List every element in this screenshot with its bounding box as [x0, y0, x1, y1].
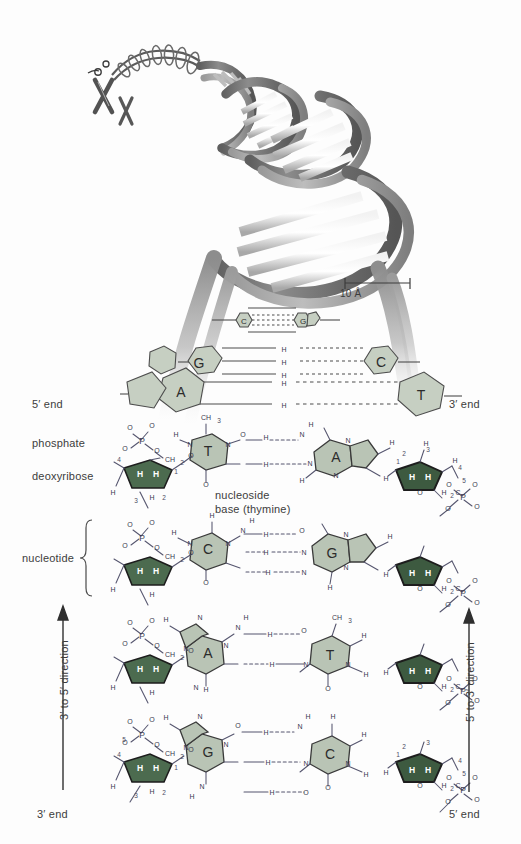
- svg-text:H: H: [137, 566, 143, 576]
- nucleoside-label-line1: nucleoside: [215, 489, 270, 501]
- scale-bar-label: 10 Å: [340, 288, 361, 299]
- svg-text:O: O: [203, 579, 209, 586]
- svg-text:H: H: [409, 765, 415, 775]
- svg-text:1: 1: [174, 764, 178, 771]
- svg-text:H: H: [110, 489, 115, 496]
- fanout-pair-cg-small: [212, 308, 340, 332]
- five-prime-end-right-label: 5′ end: [449, 808, 480, 820]
- svg-text:3: 3: [134, 497, 138, 504]
- svg-text:N: N: [197, 713, 202, 720]
- svg-text:H: H: [189, 793, 194, 800]
- svg-text:H: H: [409, 472, 415, 482]
- svg-text:2: 2: [450, 785, 454, 792]
- nucleotide-bracket: [80, 520, 92, 596]
- svg-text:5: 5: [462, 770, 466, 777]
- svg-text:N: N: [240, 527, 245, 534]
- svg-text:O: O: [149, 519, 155, 526]
- svg-text:G: G: [300, 317, 306, 326]
- svg-text:O: O: [472, 577, 478, 584]
- svg-text:H: H: [209, 512, 214, 519]
- svg-text:H: H: [281, 359, 286, 366]
- svg-text:5: 5: [122, 736, 126, 743]
- svg-text:2: 2: [402, 450, 406, 457]
- svg-text:O: O: [122, 445, 128, 452]
- svg-text:O: O: [446, 774, 452, 781]
- svg-text:H: H: [265, 759, 270, 766]
- svg-text:O: O: [417, 585, 423, 592]
- svg-text:2: 2: [450, 492, 454, 499]
- svg-text:P: P: [460, 492, 466, 502]
- svg-text:H: H: [149, 689, 154, 696]
- svg-text:H: H: [281, 346, 286, 353]
- svg-text:2: 2: [180, 654, 184, 661]
- svg-text:O: O: [154, 741, 160, 748]
- svg-text:CH: CH: [165, 553, 175, 560]
- svg-text:H: H: [441, 489, 446, 496]
- svg-text:4: 4: [458, 757, 462, 764]
- hbonds-row-1: [246, 440, 306, 464]
- hbonds-at-large: [200, 382, 398, 404]
- svg-text:2: 2: [162, 789, 166, 796]
- three-prime-end-right-label: 3′ end: [449, 398, 480, 410]
- svg-text:H: H: [425, 568, 431, 578]
- base-pair-row-3: [114, 624, 472, 710]
- svg-text:H: H: [383, 669, 388, 676]
- svg-text:A: A: [203, 645, 213, 661]
- svg-text:O: O: [446, 675, 452, 682]
- svg-text:2: 2: [450, 588, 454, 595]
- svg-text:CH: CH: [165, 456, 175, 463]
- svg-text:O: O: [325, 685, 331, 692]
- svg-text:H: H: [441, 585, 446, 592]
- phosphate-label: phosphate: [32, 437, 85, 449]
- svg-text:O: O: [188, 647, 194, 654]
- svg-text:3: 3: [217, 417, 221, 424]
- hbonds-gc-medium: [222, 348, 364, 374]
- svg-text:O: O: [445, 601, 451, 608]
- svg-text:4: 4: [458, 464, 462, 471]
- svg-text:H: H: [383, 571, 388, 578]
- svg-text:H: H: [171, 529, 176, 536]
- svg-text:O: O: [127, 718, 133, 725]
- svg-text:2: 2: [402, 743, 406, 750]
- svg-text:O: O: [154, 447, 160, 454]
- nucleoside-label-line2: base (thymine): [215, 503, 291, 515]
- svg-text:N: N: [223, 642, 228, 649]
- svg-text:O: O: [417, 489, 423, 496]
- svg-text:O: O: [122, 542, 128, 549]
- svg-text:H: H: [281, 372, 286, 379]
- svg-text:O: O: [474, 599, 480, 606]
- svg-text:O: O: [149, 716, 155, 723]
- svg-text:N: N: [297, 723, 302, 730]
- svg-text:C: C: [376, 354, 386, 370]
- svg-text:O: O: [299, 527, 305, 534]
- deoxyribose-label: deoxyribose: [32, 470, 94, 482]
- svg-text:H: H: [137, 664, 143, 674]
- svg-text:N: N: [183, 744, 188, 751]
- svg-text:3: 3: [426, 739, 430, 746]
- svg-text:H: H: [203, 686, 208, 693]
- svg-text:O: O: [127, 521, 133, 528]
- svg-text:N: N: [343, 531, 348, 538]
- hbonds-row-2: [244, 534, 300, 572]
- svg-text:P: P: [139, 730, 145, 740]
- svg-text:H: H: [305, 713, 310, 720]
- svg-text:N: N: [225, 441, 230, 448]
- svg-text:H: H: [265, 569, 270, 576]
- svg-text:H: H: [149, 788, 154, 795]
- svg-text:P: P: [460, 588, 466, 598]
- svg-text:H: H: [441, 683, 446, 690]
- five-prime-end-left-label: 5′ end: [32, 398, 63, 410]
- svg-text:H: H: [389, 439, 394, 446]
- svg-text:2: 2: [180, 459, 184, 466]
- svg-text:N: N: [223, 741, 228, 748]
- svg-text:O: O: [154, 544, 160, 551]
- svg-text:2: 2: [450, 686, 454, 693]
- svg-text:H: H: [163, 616, 168, 623]
- svg-text:O: O: [188, 452, 194, 459]
- svg-text:H: H: [363, 671, 368, 678]
- dna-diagram-artwork: C G G C A T H H H H H: [0, 0, 521, 844]
- svg-text:H: H: [269, 789, 274, 796]
- base-pair-row-1: [114, 424, 472, 516]
- svg-text:H: H: [299, 477, 304, 484]
- svg-text:T: T: [326, 647, 335, 663]
